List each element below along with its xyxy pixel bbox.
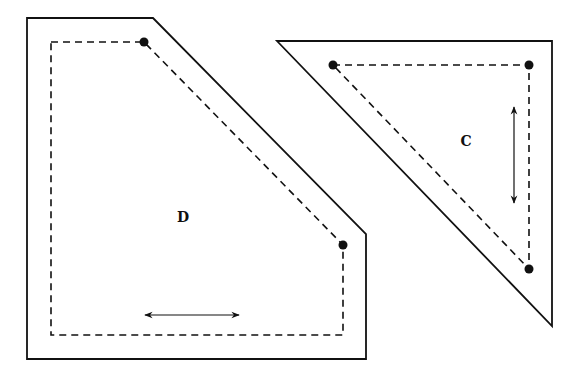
shape-d-dashed-path <box>51 42 343 335</box>
shape-c-label: C <box>460 133 471 149</box>
shape-d-outline <box>27 18 366 359</box>
shape-c-dot-top-right <box>525 61 534 70</box>
shape-c-dot-top-left <box>329 61 338 70</box>
shape-d: D <box>27 18 366 359</box>
shape-c-dot-bottom <box>525 265 534 274</box>
shape-d-dot-top <box>140 38 149 47</box>
shape-c: C <box>277 41 552 326</box>
diagram-canvas: D C <box>0 0 575 382</box>
shape-d-dot-right <box>339 241 348 250</box>
shape-d-label: D <box>177 209 189 225</box>
shape-c-dashed-path <box>333 65 529 269</box>
shape-c-outline <box>277 41 552 326</box>
